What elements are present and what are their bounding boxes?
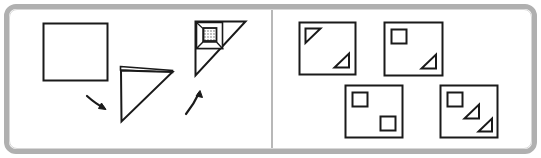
option-a-hitbox[interactable] xyxy=(299,22,357,76)
punched-triangle-figure xyxy=(196,22,246,76)
option-c-hitbox[interactable] xyxy=(345,85,404,139)
unfolded-square-figure xyxy=(44,24,108,81)
puzzle-screenshot xyxy=(0,0,541,158)
fold-arrow-icon xyxy=(87,96,106,110)
unfolded-square-outline xyxy=(44,24,108,81)
option-b-hitbox[interactable] xyxy=(384,22,444,77)
punched-hole xyxy=(204,28,217,41)
folded-triangle-outline xyxy=(121,71,173,122)
stimulus-panel xyxy=(44,22,246,122)
folded-triangle-figure xyxy=(121,67,173,122)
punch-arrow-icon xyxy=(186,91,203,115)
option-d-hitbox[interactable] xyxy=(440,85,499,139)
